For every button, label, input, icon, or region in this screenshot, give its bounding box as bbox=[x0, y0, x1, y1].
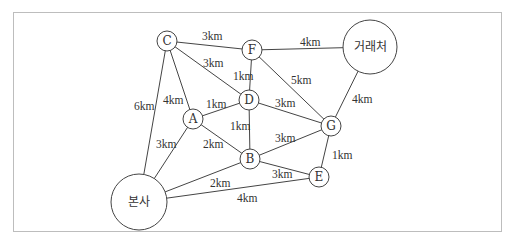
node-client: 거래처 bbox=[343, 20, 397, 74]
edge-distance-label: 3km bbox=[202, 30, 223, 42]
edge-distance-label: 1km bbox=[206, 98, 227, 110]
node-g: G bbox=[321, 116, 341, 136]
edge-distance-label: 3km bbox=[156, 138, 177, 150]
edge-distance-label: 4km bbox=[163, 94, 184, 106]
edge-distance-label: 3km bbox=[275, 132, 296, 144]
node-label: E bbox=[315, 170, 324, 184]
node-a: A bbox=[183, 109, 203, 129]
edge-distance-label: 3km bbox=[272, 168, 293, 180]
edge-distance-label: 4km bbox=[237, 192, 258, 204]
node-label: 거래처 bbox=[354, 40, 387, 54]
edge-c-f bbox=[167, 41, 252, 50]
node-label: G bbox=[326, 119, 336, 133]
edge-distance-label: 3km bbox=[203, 57, 224, 69]
node-b: B bbox=[240, 149, 260, 169]
node-hq: 본사 bbox=[111, 174, 167, 230]
node-c: C bbox=[157, 31, 177, 51]
edge-c-a bbox=[167, 41, 193, 119]
edge-distance-label: 2km bbox=[210, 177, 231, 189]
edge-distance-label: 6km bbox=[134, 100, 155, 112]
edge-distance-label: 1km bbox=[332, 149, 353, 161]
node-label: D bbox=[244, 93, 254, 107]
node-f: F bbox=[242, 40, 262, 60]
edge-distance-label: 5km bbox=[291, 74, 312, 86]
edge-distance-label: 1km bbox=[230, 120, 251, 132]
edge-distance-label: 1km bbox=[233, 70, 254, 82]
edge-distance-label: 2km bbox=[203, 138, 224, 150]
node-label: C bbox=[162, 34, 171, 48]
network-graph: 3km4km3km1km5km4km6km4km1km3km1km3km2km3… bbox=[0, 0, 510, 249]
node-d: D bbox=[239, 90, 259, 110]
node-label: F bbox=[248, 43, 256, 57]
edge-distance-label: 4km bbox=[352, 93, 373, 105]
edge-distance-label: 3km bbox=[275, 97, 296, 109]
node-label: B bbox=[246, 152, 255, 166]
edge-distance-label: 4km bbox=[300, 36, 321, 48]
edge-f-g bbox=[252, 50, 331, 126]
node-label: A bbox=[188, 112, 198, 126]
node-label: 본사 bbox=[128, 195, 150, 209]
node-e: E bbox=[309, 167, 329, 187]
